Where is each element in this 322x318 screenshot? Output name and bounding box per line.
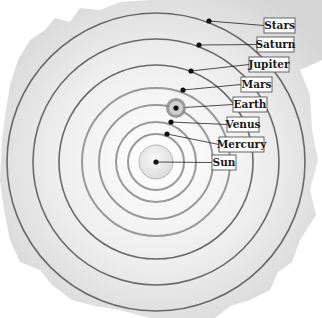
label-text-saturn: Saturn <box>255 38 295 50</box>
label-venus: Venus <box>224 117 260 132</box>
sun-dot <box>153 159 158 164</box>
label-text-mars: Mars <box>242 78 272 90</box>
venus-dot <box>168 119 173 124</box>
stars-dot <box>206 18 211 23</box>
leader-line-sun <box>156 162 212 163</box>
heliocentric-diagram: SunMercuryVenusEarthMarsJupiterSaturnSta… <box>0 0 322 318</box>
saturn-dot <box>196 42 201 47</box>
label-jupiter: Jupiter <box>248 57 290 72</box>
earth-dot <box>173 105 178 110</box>
label-mars: Mars <box>241 77 272 92</box>
label-text-sun: Sun <box>213 156 236 168</box>
label-sun: Sun <box>212 155 236 170</box>
leader-line-saturn <box>199 45 257 46</box>
label-text-stars: Stars <box>264 19 295 31</box>
label-mercury: Mercury <box>217 137 267 152</box>
mercury-dot <box>164 131 169 136</box>
label-earth: Earth <box>233 97 267 112</box>
mars-dot <box>180 87 185 92</box>
label-text-earth: Earth <box>234 98 267 110</box>
jupiter-dot <box>188 68 193 73</box>
label-text-venus: Venus <box>224 118 260 130</box>
label-saturn: Saturn <box>255 37 295 52</box>
label-text-mercury: Mercury <box>217 138 267 150</box>
diagram-canvas: SunMercuryVenusEarthMarsJupiterSaturnSta… <box>0 0 322 318</box>
label-text-jupiter: Jupiter <box>248 58 290 70</box>
label-stars: Stars <box>264 18 295 33</box>
